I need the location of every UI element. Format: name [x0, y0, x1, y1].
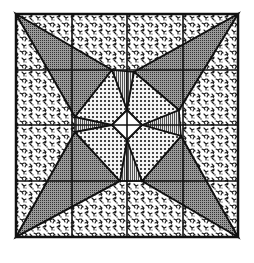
quilt-block-figure — [0, 0, 254, 263]
